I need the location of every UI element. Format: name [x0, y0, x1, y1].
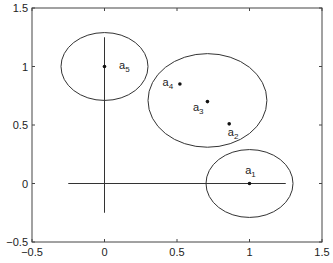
plot-frame: [32, 8, 322, 242]
data-point-a1: [248, 182, 252, 186]
point-label-a2: a2: [228, 126, 239, 141]
y-tick-label: 1.5: [13, 2, 28, 14]
x-tick-label: 1: [246, 246, 252, 258]
reference-lines: [68, 37, 286, 213]
point-label-a1: a1: [245, 164, 256, 179]
y-tick-label: 1: [22, 61, 28, 73]
x-tick-label: 1.5: [314, 246, 329, 258]
x-tick-label: 0: [101, 246, 107, 258]
y-tick-label: 0: [22, 178, 28, 190]
point-label-a5: a5: [119, 59, 130, 74]
point-label-a4: a4: [163, 76, 174, 91]
data-point-a3: [206, 100, 210, 104]
plot-border: [32, 8, 322, 242]
data-point-a4: [178, 82, 182, 86]
scatter-chart: −0.500.511.5 −0.500.511.5 a1a2a3a4a5: [0, 0, 333, 263]
y-tick-label: −0.5: [6, 236, 28, 248]
x-axis-ticks: −0.500.511.5: [21, 8, 330, 258]
y-tick-label: 0.5: [13, 119, 28, 131]
data-points: a1a2a3a4a5: [103, 59, 257, 185]
cluster-ellipses: [61, 33, 293, 218]
x-tick-label: 0.5: [169, 246, 184, 258]
point-label-a3: a3: [193, 101, 204, 116]
data-point-a5: [103, 65, 107, 69]
